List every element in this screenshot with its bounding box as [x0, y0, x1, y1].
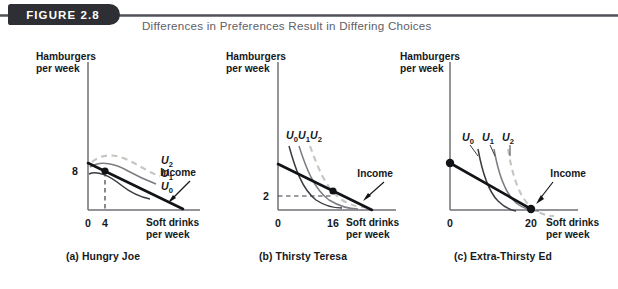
curve-label-u1: U1	[298, 129, 311, 144]
income-label: Income	[550, 168, 586, 179]
curve-label-u1: U1	[482, 131, 495, 146]
x-axis-title-line1: Soft drinks	[346, 217, 400, 228]
income-label: Income	[160, 167, 196, 178]
curve-label-u0: U0	[462, 131, 474, 146]
panel-b-caption: (b) Thirsty Teresa	[200, 251, 406, 262]
y-axis-title-line2: per week	[36, 63, 80, 74]
x-axis-title-line1: Soft drinks	[546, 217, 600, 228]
x-tick-label-16: 16	[327, 217, 339, 229]
optimum-point	[329, 187, 336, 194]
indifference-curve-u0	[289, 146, 342, 208]
curve-label-u2: U2	[310, 129, 322, 144]
x-axis-title-line2: per week	[146, 229, 190, 240]
x-axis-title-line1: Soft drinks	[146, 217, 200, 228]
indifference-curve-u0	[89, 173, 150, 199]
panel-a-caption: (a) Hungry Joe	[0, 251, 206, 262]
panel-c-caption: (c) Extra-Thirsty Ed	[400, 251, 606, 262]
optimum-point-corner	[527, 205, 535, 213]
y-axis-title-line2: per week	[226, 63, 270, 74]
x-axis-title-line2: per week	[346, 229, 390, 240]
origin-label: 0	[85, 217, 91, 229]
curve-label-u0: U0	[286, 129, 298, 144]
budget-y-intercept-point	[446, 159, 454, 167]
curve-leader-u0	[470, 145, 478, 156]
y-axis-title-line2: per week	[400, 63, 444, 74]
y-axis-title-line1: Hamburgers	[400, 51, 460, 62]
income-arrow-head	[536, 195, 544, 204]
y-axis-title-line1: Hamburgers	[226, 51, 286, 62]
budget-line	[450, 163, 531, 209]
panel-thirsty-teresa: 2 0 16 U0 U1 U2 Income Hamburgers per we…	[200, 34, 406, 289]
x-axis-title-line2: per week	[546, 229, 590, 240]
indifference-curve-u0	[478, 149, 516, 211]
x-tick-label-20: 20	[525, 217, 537, 229]
y-axis-title-line1: Hamburgers	[36, 51, 96, 62]
curve-label-u2: U2	[502, 131, 514, 146]
optimum-point	[101, 167, 108, 174]
y-tick-label-2: 2	[263, 190, 269, 202]
panel-extra-thirsty-ed: 0 20 U0 U1 U2 Income Hamburgers per week…	[400, 34, 606, 289]
panel-hungry-joe: 8 0 4 U2 U1 U0 Income Hamburgers per wee…	[0, 34, 206, 289]
figure-panels: 8 0 4 U2 U1 U0 Income Hamburgers per wee…	[0, 34, 618, 289]
figure-header: FIGURE 2.8 Differences in Preferences Re…	[0, 0, 618, 34]
income-label: Income	[357, 168, 393, 179]
y-tick-label-8: 8	[72, 165, 78, 177]
origin-label: 0	[447, 217, 453, 229]
curve-label-u0: U0	[161, 180, 173, 195]
figure-number-badge: FIGURE 2.8	[8, 4, 120, 25]
origin-label: 0	[275, 217, 281, 229]
x-tick-label-4: 4	[102, 217, 108, 229]
figure-title: Differences in Preferences Result in Dif…	[142, 19, 432, 32]
